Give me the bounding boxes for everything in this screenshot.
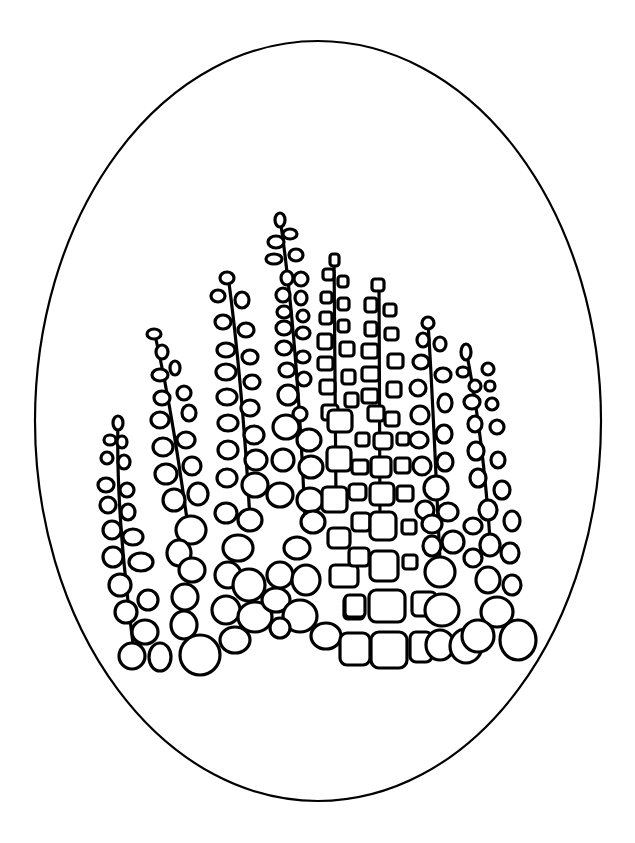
hollyhock-illustration xyxy=(0,0,635,843)
